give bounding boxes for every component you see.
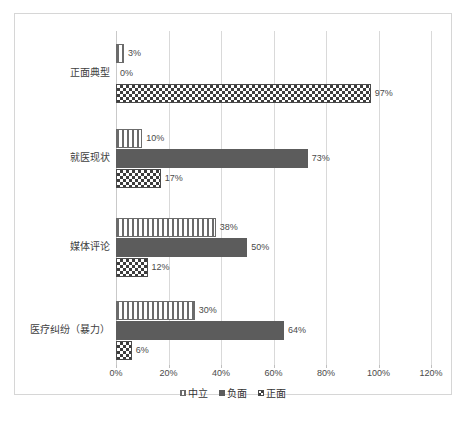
bar-value-label: 64% [288, 323, 306, 337]
bar-value-label: 97% [375, 86, 393, 100]
bar-负面[interactable] [116, 321, 284, 340]
bar-中立[interactable] [116, 44, 124, 63]
legend-swatch-icon [219, 390, 225, 396]
bar-row: 6% [116, 341, 431, 360]
bar-正面[interactable] [116, 341, 132, 360]
category-group: 就医现状10%73%17% [116, 129, 431, 189]
bar-负面[interactable] [116, 238, 247, 257]
bar-value-label: 38% [220, 220, 238, 234]
bar-负面[interactable] [116, 149, 308, 168]
bar-正面[interactable] [116, 169, 161, 188]
x-tick-label: 100% [367, 368, 390, 378]
legend-label: 正面 [266, 385, 286, 400]
bar-row: 97% [116, 84, 431, 103]
x-tick-label: 20% [159, 368, 177, 378]
category-label: 就医现状 [70, 151, 110, 165]
bar-row: 12% [116, 258, 431, 277]
category-group: 正面典型3%0%97% [116, 44, 431, 104]
category-label: 媒体评论 [70, 240, 110, 254]
bar-row: 73% [116, 149, 431, 168]
bar-row: 17% [116, 169, 431, 188]
bar-row: 38% [116, 218, 431, 237]
category-group: 媒体评论38%50%12% [116, 218, 431, 278]
bar-row: 64% [116, 321, 431, 340]
legend-item-正面[interactable]: 正面 [258, 385, 286, 400]
legend-label: 负面 [227, 385, 247, 400]
bar-row: 0% [116, 64, 431, 83]
bar-row: 50% [116, 238, 431, 257]
bar-row: 10% [116, 129, 431, 148]
bar-value-label: 73% [312, 151, 330, 165]
bar-value-label: 17% [165, 171, 183, 185]
plot-area: 正面典型3%0%97%就医现状10%73%17%媒体评论38%50%12%医疗纠… [116, 31, 431, 365]
bar-value-label: 3% [128, 46, 141, 60]
bar-正面[interactable] [116, 258, 148, 277]
legend-swatch-icon [180, 390, 186, 396]
bar-value-label: 6% [136, 343, 149, 357]
x-axis: 0%20%40%60%80%100%120% [116, 365, 431, 381]
bar-value-label: 10% [146, 131, 164, 145]
bar-中立[interactable] [116, 301, 195, 320]
legend-item-中立[interactable]: 中立 [180, 385, 208, 400]
legend-item-负面[interactable]: 负面 [219, 385, 247, 400]
bar-value-label: 30% [199, 303, 217, 317]
bar-中立[interactable] [116, 218, 216, 237]
category-label: 医疗纠纷（暴力） [30, 323, 110, 337]
legend-label: 中立 [188, 385, 208, 400]
x-tick-label: 0% [109, 368, 122, 378]
bar-中立[interactable] [116, 129, 142, 148]
x-tick-label: 80% [317, 368, 335, 378]
x-tick-label: 120% [419, 368, 442, 378]
legend-swatch-icon [258, 390, 264, 396]
bar-value-label: 50% [251, 240, 269, 254]
x-tick-label: 60% [264, 368, 282, 378]
bar-row: 3% [116, 44, 431, 63]
bar-value-label: 0% [120, 66, 133, 80]
gridline-120 [431, 31, 432, 365]
chart-frame: 正面典型3%0%97%就医现状10%73%17%媒体评论38%50%12%医疗纠… [14, 13, 452, 395]
category-label: 正面典型 [70, 66, 110, 80]
category-group: 医疗纠纷（暴力）30%64%6% [116, 301, 431, 361]
bar-row: 30% [116, 301, 431, 320]
chart-legend: 中立负面正面 [15, 385, 451, 400]
bar-value-label: 12% [152, 260, 170, 274]
bar-正面[interactable] [116, 84, 371, 103]
x-tick-label: 40% [212, 368, 230, 378]
